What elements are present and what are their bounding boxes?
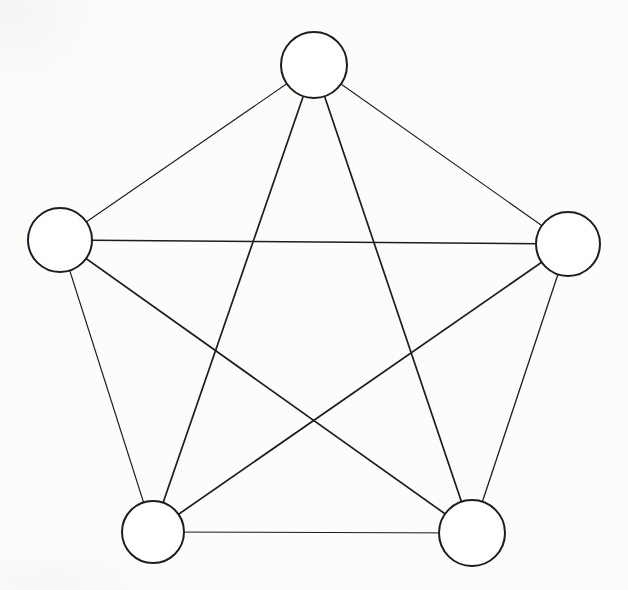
graph-edge-bottom-left-bottom-right [153, 532, 472, 533]
graph-edge-left-right [60, 240, 568, 244]
k5-graph-svg [0, 0, 628, 590]
graph-edge-left-bottom-left [60, 240, 153, 532]
graph-node-left [28, 208, 92, 272]
graph-edge-top-right [314, 65, 568, 244]
k5-graph-figure [0, 0, 628, 590]
graph-node-right [536, 212, 600, 276]
graph-edge-right-bottom-right [472, 244, 568, 533]
graph-edge-top-bottom-right [314, 65, 472, 533]
graph-edge-top-left [60, 65, 314, 240]
graph-node-bottom-left [122, 501, 184, 563]
graph-edge-right-bottom-left [153, 244, 568, 532]
graph-node-bottom-right [439, 500, 505, 566]
graph-node-top [281, 32, 347, 98]
graph-edge-left-bottom-right [60, 240, 472, 533]
graph-edge-top-bottom-left [153, 65, 314, 532]
